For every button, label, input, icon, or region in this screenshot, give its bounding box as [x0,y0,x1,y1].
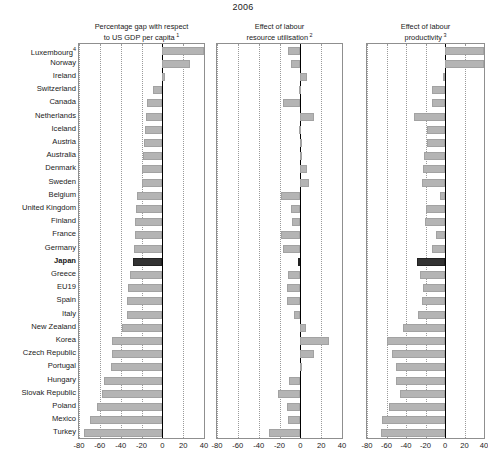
bar [420,271,445,279]
value-axis: -80-60-40-2002040 [366,439,485,455]
plot-area [216,43,343,439]
gridline [465,44,467,438]
bar [423,284,445,292]
tick-label: -20 [136,441,147,450]
gridline [321,44,323,438]
bar [300,165,306,173]
tick-label: -40 [115,441,126,450]
bar [278,390,300,398]
bar [403,324,445,332]
category-label: Turkey [2,427,76,436]
bar [136,205,162,213]
tick-label: 0 [443,441,447,450]
bar [432,99,445,107]
bar [287,403,301,411]
bar [300,179,308,187]
bar [287,297,301,305]
bar [134,245,162,253]
tick-label: -60 [381,441,392,450]
bar [414,113,445,121]
category-label: Hungary [2,375,76,384]
bar [104,377,162,385]
bar [389,403,445,411]
bar [396,363,445,371]
category-label: Iceland [2,124,76,133]
gridline [259,44,261,438]
bar [102,390,162,398]
gridline [484,44,485,438]
plot-area [366,43,485,439]
tick-label: 20 [179,441,187,450]
gridline [367,44,369,438]
category-label: Canada [2,97,76,106]
category-label: Czech Republic [2,348,76,357]
category-label: Germany [2,243,76,252]
tick-label: 40 [338,441,346,450]
bar [84,429,162,437]
tick-label: 0 [298,441,302,450]
category-label: Ireland [2,71,76,80]
bar [283,245,301,253]
bar [130,271,162,279]
bar [292,218,300,226]
category-label: EU19 [2,282,76,291]
bar [436,231,445,239]
footnote-marker: 1 [175,32,180,38]
bar [146,113,163,121]
bar [422,297,445,305]
category-label: Italy [2,309,76,318]
bar [387,337,445,345]
category-label: Spain [2,295,76,304]
tick-label: 0 [160,441,164,450]
bar [281,231,301,239]
bar [283,99,301,107]
bar [142,165,163,173]
category-label: Switzerland [2,84,76,93]
footnote-marker: 3 [442,32,447,38]
value-axis: -80-60-40-2002040 [216,439,343,455]
bar [128,284,162,292]
panel-labour-utilisation: Effect of labour resource utilisation 2 … [216,22,343,455]
bar [427,126,445,134]
bar [289,377,300,385]
category-label: Greece [2,269,76,278]
tick-label: -20 [420,441,431,450]
bar [418,311,445,319]
tick-label: -40 [401,441,412,450]
bar [382,416,445,424]
zero-line [300,44,301,438]
category-label: France [2,229,76,238]
bar [112,350,162,358]
category-label: Norway [2,58,76,67]
bar [300,113,314,121]
bar [300,73,306,81]
category-label: Mexico [2,414,76,423]
bar [400,390,445,398]
bar [162,60,190,68]
tick-label: -60 [94,441,105,450]
bar [111,363,162,371]
bar [300,324,305,332]
category-label: Luxembourg4 [2,45,76,57]
tick-label: -60 [232,441,243,450]
bar [145,126,163,134]
tick-label: -20 [274,441,285,450]
bar [147,99,163,107]
bar [162,47,204,55]
bar [423,165,445,173]
zero-line [162,44,163,438]
bar [287,284,301,292]
bar [445,47,484,55]
bar [424,152,445,160]
zero-line [445,44,446,438]
gridline [100,44,102,438]
category-label: Poland [2,401,76,410]
bar [300,337,329,345]
bar [396,377,445,385]
bar [288,271,301,279]
bar [288,416,301,424]
panel-labour-productivity: Effect of labour productivity 3 -80-60-4… [366,22,485,455]
bar [135,231,162,239]
category-label: Denmark [2,163,76,172]
